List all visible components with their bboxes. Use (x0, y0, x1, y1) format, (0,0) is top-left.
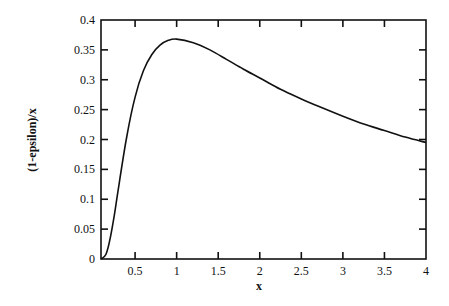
y-tick-label: 0.3 (80, 73, 95, 87)
y-axis-title: (1-epsilon)/x (25, 108, 39, 171)
y-tick-label: 0.05 (74, 222, 95, 236)
y-tick-label: 0.4 (80, 13, 95, 27)
y-tick-label: 0.1 (80, 192, 95, 206)
x-axis-ticks: 0.511.522.533.54 (128, 20, 429, 278)
x-tick-label: 3.5 (377, 264, 392, 278)
line-chart: 00.050.10.150.20.250.30.350.4 0.511.522.… (0, 0, 449, 306)
x-tick-label: 0.5 (128, 264, 143, 278)
x-tick-label: 4 (423, 264, 429, 278)
x-tick-label: 1 (174, 264, 180, 278)
y-tick-label: 0.35 (74, 43, 95, 57)
plot-frame (101, 20, 426, 259)
x-tick-label: 1.5 (211, 264, 226, 278)
x-tick-label: 2 (257, 264, 263, 278)
y-tick-label: 0 (89, 252, 95, 266)
plot-border (101, 20, 426, 259)
y-tick-label: 0.15 (74, 162, 95, 176)
y-tick-label: 0.2 (80, 133, 95, 147)
x-tick-label: 3 (340, 264, 346, 278)
x-axis-title: x (256, 279, 262, 293)
data-curve (101, 39, 426, 259)
x-tick-label: 2.5 (294, 264, 309, 278)
y-tick-label: 0.25 (74, 103, 95, 117)
